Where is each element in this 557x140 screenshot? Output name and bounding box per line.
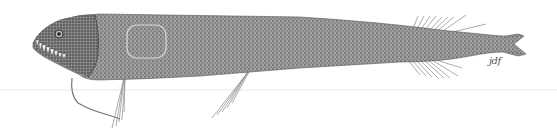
fish-drawing: [0, 0, 557, 140]
pectoral-fin-rays: [112, 78, 125, 128]
anal-fin-rays: [408, 60, 462, 78]
barbel: [72, 78, 120, 119]
artist-signature: jdf: [489, 55, 501, 66]
fish-body: [33, 14, 526, 80]
fish-illustration: jdf: [0, 0, 557, 140]
pelvic-fin-rays: [212, 72, 249, 118]
